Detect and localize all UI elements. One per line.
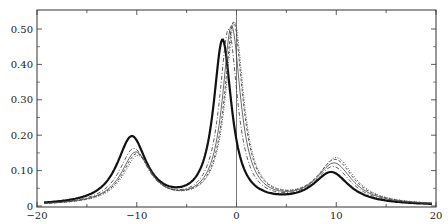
series-curve: [44, 26, 432, 204]
y-tick-label: 0.20: [11, 130, 33, 141]
series-curve: [44, 22, 432, 203]
y-tick-label: 0.50: [11, 24, 33, 35]
x-tick-label: 0: [233, 210, 239, 221]
x-tick-label: −20: [26, 210, 47, 221]
data-series: [44, 22, 432, 204]
y-tick-label: 0.30: [11, 94, 33, 105]
series-curve: [44, 40, 432, 204]
x-axis: −20−1001020: [26, 10, 442, 221]
x-tick-label: 20: [430, 210, 443, 221]
y-tick-label: 0.10: [11, 165, 33, 176]
series-curve: [44, 29, 432, 203]
line-chart: 00.100.200.300.400.50 −20−1001020: [0, 0, 448, 224]
y-axis: 00.100.200.300.400.50: [11, 24, 436, 212]
x-tick-label: 10: [330, 210, 343, 221]
x-tick-label: −10: [126, 210, 147, 221]
y-tick-label: 0.40: [11, 59, 33, 70]
